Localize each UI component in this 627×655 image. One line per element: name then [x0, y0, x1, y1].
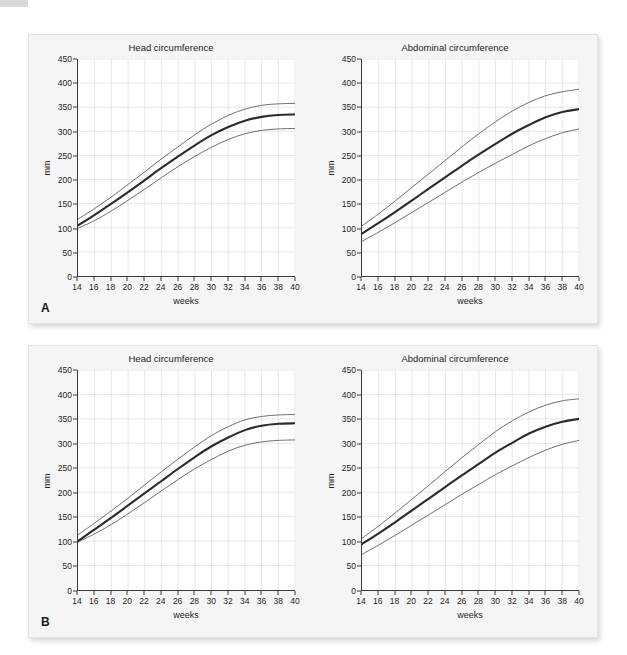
plot-svg	[78, 59, 295, 276]
y-tick-label: 200	[342, 175, 356, 185]
panel-a-card: Head circumference mm weeks 050100150200…	[28, 34, 598, 324]
x-tick-label: 22	[423, 596, 432, 606]
x-tick-label: 26	[173, 282, 182, 292]
corner-marker-bar	[0, 0, 28, 7]
y-tick-label: 100	[58, 224, 72, 234]
y-tick-label: 400	[342, 390, 356, 400]
y-tick-mark	[73, 394, 77, 395]
y-tick-mark	[73, 468, 77, 469]
x-tick-label: 30	[490, 282, 499, 292]
x-tick-mark	[411, 277, 412, 281]
x-tick-mark	[93, 277, 94, 281]
x-tick-mark	[244, 277, 245, 281]
y-tick-mark	[357, 131, 361, 132]
x-tick-mark	[211, 277, 212, 281]
panel-label-a: A	[41, 301, 50, 315]
y-tick-label: 300	[342, 439, 356, 449]
y-tick-mark	[357, 370, 361, 371]
y-tick-mark	[73, 107, 77, 108]
x-tick-label: 40	[290, 282, 299, 292]
panel-label-b: B	[41, 615, 50, 629]
y-tick-label: 350	[342, 414, 356, 424]
y-tick-mark	[357, 517, 361, 518]
y-axis-title: mm	[42, 473, 52, 488]
y-tick-label: 0	[67, 586, 72, 596]
y-tick-label: 400	[58, 390, 72, 400]
x-tick-mark	[579, 277, 580, 281]
plot-area	[77, 370, 295, 591]
x-tick-mark	[194, 591, 195, 595]
y-tick-label: 350	[58, 414, 72, 424]
x-tick-label: 14	[72, 282, 81, 292]
y-tick-label: 200	[58, 488, 72, 498]
x-tick-label: 26	[457, 596, 466, 606]
y-tick-label: 150	[342, 199, 356, 209]
x-tick-mark	[261, 591, 262, 595]
y-tick-mark	[73, 180, 77, 181]
x-tick-mark	[377, 591, 378, 595]
x-tick-label: 20	[407, 596, 416, 606]
x-tick-label: 16	[89, 282, 98, 292]
x-axis-title: weeks	[457, 296, 483, 306]
x-tick-label: 16	[373, 596, 382, 606]
x-tick-label: 18	[106, 282, 115, 292]
x-tick-mark	[177, 277, 178, 281]
x-tick-mark	[295, 591, 296, 595]
y-tick-mark	[357, 492, 361, 493]
x-tick-mark	[144, 591, 145, 595]
x-tick-mark	[77, 277, 78, 281]
x-tick-mark	[528, 277, 529, 281]
y-tick-mark	[73, 492, 77, 493]
x-tick-mark	[428, 591, 429, 595]
x-tick-label: 26	[457, 282, 466, 292]
x-tick-mark	[478, 277, 479, 281]
y-tick-label: 100	[342, 224, 356, 234]
x-tick-mark	[261, 277, 262, 281]
x-tick-mark	[227, 591, 228, 595]
y-tick-label: 350	[58, 102, 72, 112]
x-axis-title: weeks	[173, 296, 199, 306]
y-tick-label: 450	[58, 365, 72, 375]
chart-a-head: Head circumference mm weeks 050100150200…	[29, 35, 313, 323]
x-tick-mark	[144, 277, 145, 281]
y-tick-mark	[73, 228, 77, 229]
x-tick-label: 30	[206, 282, 215, 292]
x-tick-label: 20	[407, 282, 416, 292]
x-tick-label: 26	[173, 596, 182, 606]
y-tick-label: 50	[63, 248, 72, 258]
y-tick-label: 400	[342, 78, 356, 88]
y-tick-label: 350	[342, 102, 356, 112]
panel-a-charts-row: Head circumference mm weeks 050100150200…	[29, 35, 597, 323]
y-tick-label: 50	[347, 561, 356, 571]
y-tick-mark	[357, 541, 361, 542]
x-tick-mark	[495, 277, 496, 281]
x-tick-label: 32	[223, 282, 232, 292]
plot-svg	[362, 370, 579, 590]
y-tick-mark	[357, 252, 361, 253]
y-tick-mark	[73, 131, 77, 132]
plot-wrapper: mm weeks 0501001502002503003504004501416…	[77, 59, 295, 277]
x-tick-mark	[177, 591, 178, 595]
y-tick-mark	[73, 541, 77, 542]
x-tick-label: 36	[541, 282, 550, 292]
x-tick-label: 14	[356, 596, 365, 606]
y-tick-label: 200	[342, 488, 356, 498]
x-tick-mark	[93, 591, 94, 595]
x-tick-label: 24	[156, 282, 165, 292]
x-tick-label: 38	[557, 596, 566, 606]
y-tick-label: 0	[351, 586, 356, 596]
y-tick-mark	[73, 566, 77, 567]
x-tick-label: 36	[541, 596, 550, 606]
panel-b-charts-row: Head circumference mm weeks 050100150200…	[29, 346, 597, 637]
y-tick-mark	[357, 394, 361, 395]
x-tick-mark	[428, 277, 429, 281]
x-tick-mark	[478, 591, 479, 595]
x-tick-mark	[278, 591, 279, 595]
plot-wrapper: mm weeks 0501001502002503003504004501416…	[77, 370, 295, 591]
y-tick-mark	[357, 443, 361, 444]
x-tick-label: 34	[524, 282, 533, 292]
y-tick-label: 250	[342, 151, 356, 161]
y-tick-mark	[357, 228, 361, 229]
x-tick-label: 32	[507, 282, 516, 292]
x-tick-mark	[411, 591, 412, 595]
